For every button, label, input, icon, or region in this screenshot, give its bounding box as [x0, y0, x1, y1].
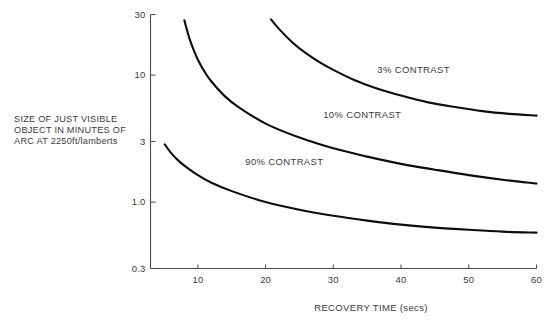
- y-axis-ticks: 0.31.031030: [132, 9, 156, 274]
- data-curves: [165, 19, 537, 232]
- x-tick-label: 10: [192, 274, 203, 285]
- y-tick-label: 3: [140, 136, 145, 147]
- x-tick-label: 50: [463, 274, 474, 285]
- series-label: 3% CONTRAST: [377, 64, 449, 75]
- y-tick-label: 10: [135, 69, 146, 80]
- y-tick-label: 30: [135, 9, 146, 20]
- curve-90-contrast: [165, 144, 537, 232]
- series-label: 90% CONTRAST: [245, 156, 323, 167]
- x-tick-label: 60: [531, 274, 542, 285]
- chart-figure: SIZE OF JUST VISIBLE OBJECT IN MINUTES O…: [0, 0, 557, 324]
- chart-svg: 0.31.031030 102030405060 90% CONTRAST10%…: [0, 0, 557, 324]
- y-tick-label: 1.0: [132, 196, 146, 207]
- x-axis-ticks: 102030405060: [192, 265, 542, 285]
- x-tick-label: 40: [396, 274, 407, 285]
- series-label: 10% CONTRAST: [323, 109, 401, 120]
- x-axis-title: RECOVERY TIME (secs): [314, 302, 428, 313]
- x-tick-label: 30: [328, 274, 339, 285]
- curve-10-contrast: [184, 20, 536, 183]
- x-tick-label: 20: [260, 274, 271, 285]
- y-tick-label: 0.3: [132, 263, 146, 274]
